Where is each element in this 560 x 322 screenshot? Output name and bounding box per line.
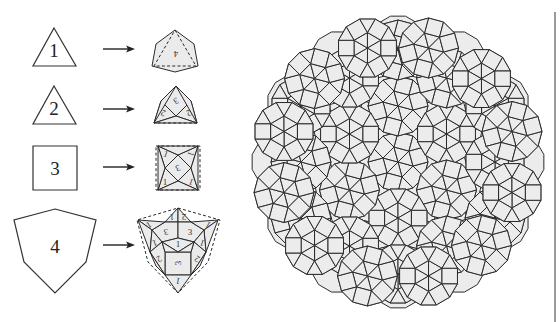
tile xyxy=(483,185,499,201)
rule-1: 14 xyxy=(33,28,198,72)
tile xyxy=(525,185,541,201)
tile xyxy=(418,126,434,142)
substitution-result-2: 322 xyxy=(154,86,197,123)
tile xyxy=(381,40,397,56)
tile xyxy=(328,238,344,254)
prototile-label: 1 xyxy=(49,40,59,61)
sub-tile-label: 2 xyxy=(182,212,187,222)
sub-tile-label: 1 xyxy=(170,212,175,222)
substitution-result-3: 31111 xyxy=(156,146,200,190)
tile xyxy=(321,126,337,142)
substitution-result-1: 4 xyxy=(152,30,198,72)
tiling-patch xyxy=(252,16,544,308)
tile xyxy=(495,71,511,87)
sub-tile-label: 4 xyxy=(173,49,178,59)
tile xyxy=(255,124,270,140)
sub-tile-label: 3 xyxy=(188,227,193,237)
tile xyxy=(363,126,379,142)
tile xyxy=(369,210,385,226)
prototile-label: 3 xyxy=(50,158,60,179)
sub-tile-label: 3 xyxy=(173,260,183,265)
tile xyxy=(339,40,355,56)
tile xyxy=(442,268,458,284)
tile xyxy=(460,126,476,142)
substitution-rules-panel: 14232233111141233131111221 xyxy=(14,28,220,293)
tile xyxy=(411,210,427,226)
rule-2: 2322 xyxy=(33,86,197,124)
tile xyxy=(286,238,302,254)
rule-4: 41233131111221 xyxy=(14,208,220,293)
tile xyxy=(297,124,313,140)
tile xyxy=(466,154,482,170)
prototile-label: 4 xyxy=(50,236,60,257)
tile xyxy=(400,268,416,284)
rule-3: 331111 xyxy=(33,146,200,190)
sub-tile-label: 1 xyxy=(163,177,168,187)
tile xyxy=(453,71,469,87)
sub-tile-label: 1 xyxy=(176,239,181,249)
substitution-result-4: 1233131111221 xyxy=(137,208,220,293)
prototile-label: 2 xyxy=(49,98,59,119)
substitution-tiling-figure: 14232233111141233131111221 xyxy=(0,0,560,322)
